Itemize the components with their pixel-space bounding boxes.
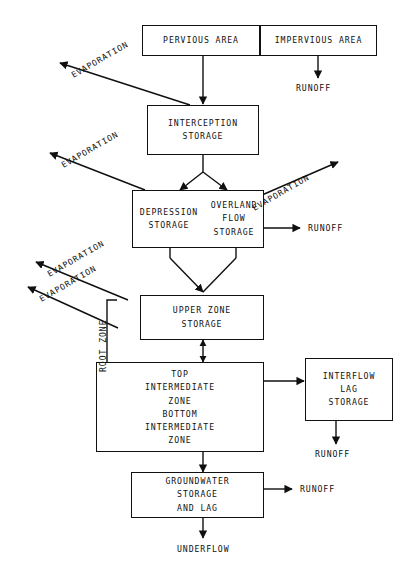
groundwater-line1: GROUNDWATER bbox=[165, 475, 229, 488]
pervious-area-label: PERVIOUS AREA bbox=[163, 34, 239, 47]
label-underflow: UNDERFLOW bbox=[177, 545, 229, 555]
depression-storage-line1: DEPRESSION bbox=[140, 206, 198, 219]
impervious-area-label: IMPERVIOUS AREA bbox=[275, 34, 362, 47]
arrow-interception-to-overland bbox=[203, 172, 227, 190]
bottom-intermediate-zone-line3: ZONE bbox=[168, 434, 191, 447]
box-depression-storage[interactable]: DEPRESSION STORAGE bbox=[132, 190, 205, 248]
bottom-intermediate-zone-line2: INTERMEDIATE bbox=[145, 421, 215, 434]
upper-zone-storage-line2: STORAGE bbox=[182, 318, 223, 331]
label-runoff-overland: RUNOFF bbox=[308, 224, 343, 234]
interflow-lag-storage-line2: LAG bbox=[340, 383, 358, 396]
depression-storage-line2: STORAGE bbox=[149, 219, 190, 232]
upper-zone-storage-line1: UPPER ZONE bbox=[173, 304, 231, 317]
box-interflow-lag-storage[interactable]: INTERFLOW LAG STORAGE bbox=[305, 358, 393, 421]
groundwater-line3: AND LAG bbox=[177, 502, 218, 515]
box-intermediate-zone[interactable]: TOP INTERMEDIATE ZONE BOTTOM INTERMEDIAT… bbox=[96, 362, 264, 452]
interception-storage-line1: INTERCEPTION bbox=[168, 117, 238, 130]
overland-flow-storage-line2: FLOW bbox=[222, 212, 245, 225]
box-upper-zone-storage[interactable]: UPPER ZONE STORAGE bbox=[140, 295, 264, 340]
top-intermediate-zone-line3: ZONE bbox=[168, 395, 191, 408]
box-overland-flow-storage[interactable]: OVERLAND FLOW STORAGE bbox=[205, 190, 264, 248]
top-intermediate-zone-line2: INTERMEDIATE bbox=[145, 381, 215, 394]
top-intermediate-zone-line1: TOP bbox=[171, 368, 189, 381]
interflow-lag-storage-line3: STORAGE bbox=[329, 396, 370, 409]
arrow-depression-to-upper-zone bbox=[170, 258, 203, 292]
interflow-lag-storage-line1: INTERFLOW bbox=[323, 370, 375, 383]
label-runoff-impervious: RUNOFF bbox=[296, 84, 331, 94]
label-runoff-interflow: RUNOFF bbox=[315, 450, 350, 460]
arrow-interception-to-depression bbox=[180, 172, 203, 190]
interception-storage-line2: STORAGE bbox=[183, 130, 224, 143]
box-pervious-area[interactable]: PERVIOUS AREA bbox=[142, 25, 260, 56]
groundwater-line2: STORAGE bbox=[177, 488, 218, 501]
top-intermediate-zone-group: TOP INTERMEDIATE ZONE bbox=[145, 368, 215, 408]
box-impervious-area[interactable]: IMPERVIOUS AREA bbox=[260, 25, 377, 56]
label-root-zone: ROOT ZONE bbox=[99, 320, 109, 372]
box-groundwater-storage-and-lag[interactable]: GROUNDWATER STORAGE AND LAG bbox=[131, 472, 264, 518]
box-interception-storage[interactable]: INTERCEPTION STORAGE bbox=[147, 105, 259, 155]
label-runoff-groundwater: RUNOFF bbox=[300, 485, 335, 495]
overland-flow-storage-line1: OVERLAND bbox=[211, 199, 258, 212]
bottom-intermediate-zone-line1: BOTTOM bbox=[163, 408, 198, 421]
hydrology-flow-diagram: PERVIOUS AREA IMPERVIOUS AREA INTERCEPTI… bbox=[0, 0, 415, 574]
bottom-intermediate-zone-group: BOTTOM INTERMEDIATE ZONE bbox=[145, 408, 215, 448]
overland-flow-storage-line3: STORAGE bbox=[214, 226, 255, 239]
